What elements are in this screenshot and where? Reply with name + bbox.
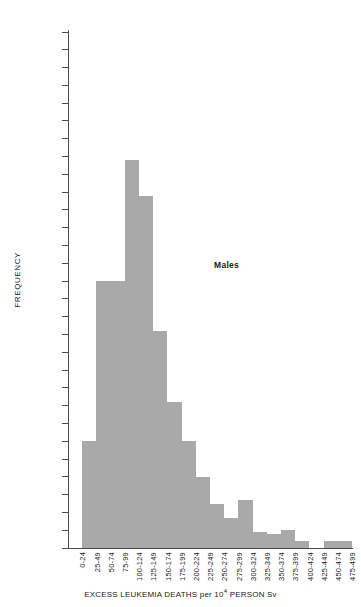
x-axis-tick-label: 175-199 (178, 552, 187, 581)
histogram-bar (224, 518, 238, 548)
series-annotation-males: Males (214, 260, 239, 270)
histogram-bar (196, 477, 210, 548)
x-axis-tick-label: 425-449 (320, 552, 329, 581)
x-axis-tick-label: 125-149 (149, 552, 158, 581)
x-axis-tick-label: 200-224 (192, 552, 201, 581)
histogram-bar (125, 160, 139, 548)
histogram-bar (82, 441, 96, 548)
x-axis-tick-label: 150-174 (164, 552, 173, 581)
histogram-bar (210, 504, 224, 548)
histogram-bar (153, 331, 167, 548)
x-axis-tick-label: 75-99 (121, 552, 130, 572)
histogram-figure: FREQUENCY 010203040506070809010011012013… (0, 0, 361, 607)
x-axis-title: EXCESS LEUKEMIA DEATHS per 104 PERSON Sv (0, 588, 361, 599)
x-axis-tick-label: 400-424 (306, 552, 315, 581)
histogram-bar (139, 196, 153, 548)
histogram-bar (295, 541, 309, 548)
x-axis-tick-label: 275-299 (235, 552, 244, 581)
histogram-bar (253, 532, 267, 548)
x-axis-tick-label: 0-24 (78, 552, 87, 568)
histogram-bar (238, 500, 252, 548)
histogram-bar (182, 441, 196, 548)
histogram-bar (167, 402, 181, 548)
histogram-bar (267, 534, 281, 548)
histogram-bar (96, 281, 110, 548)
x-axis-tick-label: 50-74 (107, 552, 116, 572)
x-axis-tick-label: 225-249 (206, 552, 215, 581)
x-axis-title-after: PERSON Sv (227, 590, 277, 599)
histogram-bar (281, 530, 295, 548)
x-axis-tick-label: 350-374 (277, 552, 286, 581)
x-axis-tick-label: 250-274 (220, 552, 229, 581)
y-axis-title-text: FREQUENCY (13, 252, 22, 308)
plot-area (68, 32, 352, 548)
x-axis-tick-label: 375-399 (291, 552, 300, 581)
histogram-bar (338, 541, 352, 548)
y-axis-title: FREQUENCY (8, 0, 26, 560)
x-axis-tick-label: 100-124 (135, 552, 144, 581)
x-axis-title-before: EXCESS LEUKEMIA DEATHS per 10 (84, 590, 223, 599)
x-axis-tick-label: 325-349 (263, 552, 272, 581)
x-axis-line (68, 548, 353, 549)
x-axis-tick-label: 475-499 (348, 552, 357, 581)
x-axis-tick-label: 450-474 (334, 552, 343, 581)
histogram-bar (324, 541, 338, 548)
x-axis-tick-label: 300-324 (249, 552, 258, 581)
histogram-bar (111, 281, 125, 548)
x-axis-tick-label: 25-49 (93, 552, 102, 572)
